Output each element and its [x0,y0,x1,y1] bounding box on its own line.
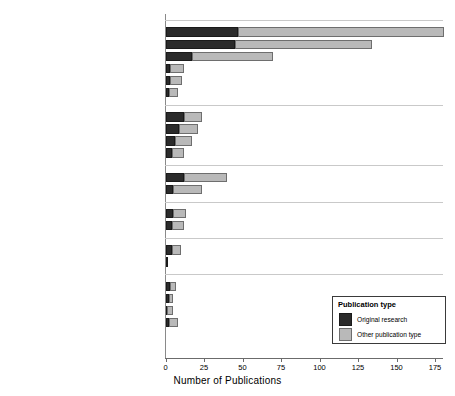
bar-row [0,76,455,85]
x-tick-label-50: 50 [238,363,246,372]
bar-segment-original-research [166,124,180,133]
bar-segment-other-publication-type [170,282,176,291]
x-tick-label-0: 0 [163,363,167,372]
bar-row [0,245,455,254]
group-separator-0 [165,20,443,21]
bar-row [0,52,455,61]
legend-title: Publication type [338,300,396,309]
bar-segment-original-research [166,52,192,61]
bar-row [0,27,455,36]
bar-segment-original-research [166,27,238,36]
bar-row [0,257,455,266]
bar-row [0,173,455,182]
bar-segment-original-research [166,185,174,194]
group-separator-2 [165,165,443,166]
legend-swatch-other-publication-type [339,328,352,341]
bar-row [0,88,455,97]
x-tick-label-150: 150 [390,363,403,372]
bar-segment-other-publication-type [184,112,202,121]
bar-segment-other-publication-type [238,27,444,36]
group-separator-5 [165,274,443,275]
bar-segment-other-publication-type [169,88,178,97]
bar-row [0,209,455,218]
x-tick-label-100: 100 [313,363,326,372]
bar-segment-other-publication-type [170,64,184,73]
x-axis-label: Number of Publications [0,375,455,386]
legend: Publication type Original research Other… [332,296,446,344]
bar-segment-original-research [166,40,235,49]
bar-segment-other-publication-type [179,124,197,133]
x-axis-line [165,358,443,359]
bar-segment-original-research [166,257,168,266]
x-tick-25 [204,358,205,362]
bar-segment-original-research [166,112,184,121]
bar-segment-other-publication-type [172,245,181,254]
x-tick-150 [397,358,398,362]
x-tick-0 [166,358,167,362]
bar-row [0,124,455,133]
x-tick-label-175: 175 [429,363,442,372]
bar-segment-other-publication-type [173,185,202,194]
bar-segment-other-publication-type [169,318,178,327]
bar-row [0,148,455,157]
bar-row [0,136,455,145]
x-tick-100 [320,358,321,362]
bar-row [0,112,455,121]
group-separator-4 [165,238,443,239]
bar-row [0,40,455,49]
x-tick-175 [435,358,436,362]
x-tick-125 [358,358,359,362]
bar-row [0,282,455,291]
bar-segment-other-publication-type [172,221,184,230]
legend-label-original-research: Original research [357,316,407,323]
bar-segment-original-research [166,136,175,145]
bar-segment-other-publication-type [173,209,185,218]
bar-segment-original-research [166,173,184,182]
group-separator-3 [165,202,443,203]
bar-segment-other-publication-type [170,76,182,85]
bar-segment-other-publication-type [172,148,184,157]
bar-row [0,221,455,230]
x-tick-label-25: 25 [200,363,208,372]
bar-row [0,64,455,73]
x-tick-50 [243,358,244,362]
group-separator-1 [165,105,443,106]
legend-swatch-original-research [339,313,352,326]
bar-segment-other-publication-type [184,173,227,182]
publications-bar-chart: 0255075100125150175 PhysicalMobilityPhys… [0,0,455,396]
x-tick-label-75: 75 [277,363,285,372]
x-tick-label-125: 125 [352,363,365,372]
bar-segment-other-publication-type [175,136,192,145]
legend-label-other-publication-type: Other publication type [357,331,421,338]
bar-segment-other-publication-type [169,294,174,303]
bar-segment-other-publication-type [235,40,372,49]
bar-segment-other-publication-type [192,52,274,61]
bar-row [0,185,455,194]
bar-segment-other-publication-type [167,306,173,315]
bar-segment-original-research [166,209,174,218]
x-tick-75 [281,358,282,362]
